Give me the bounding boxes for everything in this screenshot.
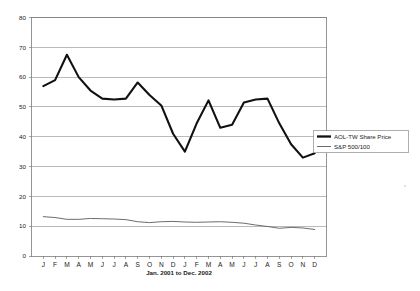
- x-tick-label: N: [159, 261, 164, 268]
- x-tick-label: J: [254, 261, 257, 268]
- legend-label-aol: AOL-TW Share Price: [334, 133, 392, 140]
- x-tick-label: A: [265, 261, 270, 268]
- x-tick-label: S: [277, 261, 282, 268]
- scan-speck: [404, 185, 406, 187]
- x-tick-label: O: [147, 261, 152, 268]
- x-tick-label: S: [135, 261, 140, 268]
- y-tick-label: 40: [19, 133, 26, 140]
- line-chart: 01020304050607080 JFMAMJJASONDJFMAMJJASO…: [0, 0, 420, 291]
- chart-figure: 01020304050607080 JFMAMJJASONDJFMAMJJASO…: [0, 0, 420, 291]
- y-tick-label: 50: [19, 103, 26, 110]
- y-tick-label: 80: [19, 14, 26, 21]
- x-tick-label: J: [112, 261, 115, 268]
- y-tick-label: 30: [19, 163, 26, 170]
- x-tick-label: A: [218, 261, 223, 268]
- y-tick-label: 70: [19, 44, 26, 51]
- x-tick-label: F: [195, 261, 199, 268]
- x-axis-title: Jan. 2001 to Dec. 2002: [146, 269, 212, 276]
- legend-label-sp500: S&P 500/100: [334, 143, 370, 150]
- x-tick-label: O: [289, 261, 294, 268]
- x-tick-label: F: [53, 261, 57, 268]
- y-tick-label: 60: [19, 73, 26, 80]
- x-tick-label: A: [124, 261, 129, 268]
- x-tick-label: D: [312, 261, 317, 268]
- y-tick-label: 20: [19, 193, 26, 200]
- x-tick-label: A: [76, 261, 81, 268]
- x-tick-label: J: [42, 261, 45, 268]
- x-tick-label: J: [101, 261, 104, 268]
- x-tick-label: M: [229, 261, 235, 268]
- x-tick-label: N: [301, 261, 306, 268]
- y-tick-label: 10: [19, 222, 26, 229]
- x-tick-label: D: [171, 261, 176, 268]
- x-tick-label: M: [64, 261, 70, 268]
- x-tick-label: J: [242, 261, 245, 268]
- y-tick-label: 0: [23, 252, 27, 259]
- legend: AOL-TW Share Price S&P 500/100: [314, 131, 409, 153]
- x-tick-label: M: [88, 261, 94, 268]
- x-tick-label: J: [183, 261, 186, 268]
- x-tick-label: M: [206, 261, 212, 268]
